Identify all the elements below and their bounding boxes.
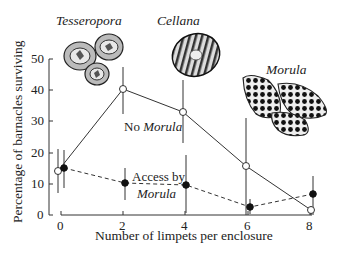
cellana-label: Cellana — [157, 13, 200, 29]
x-axis-label: Number of limpets per enclosure — [95, 228, 273, 244]
tesseropora-illustration-icon — [64, 34, 123, 85]
annotation-access-line1: Access by — [132, 169, 185, 185]
annotation-access-line2: Morula — [137, 186, 176, 202]
y-axis-label: Percentage of barnacles surviving — [10, 43, 26, 223]
morula-label: Morula — [266, 62, 307, 78]
cellana-illustration-icon — [166, 27, 225, 83]
y-tick-20: 20 — [31, 145, 44, 161]
y-tick-10: 10 — [31, 176, 44, 192]
y-tick-0: 0 — [37, 207, 44, 223]
y-tick-50: 50 — [31, 51, 44, 67]
x-tick-0: 0 — [57, 218, 64, 234]
chart: 50 40 30 20 10 0 0 2 4 6 8 Percentage of… — [0, 0, 343, 261]
y-tick-40: 40 — [31, 82, 44, 98]
morula-illustration-icon — [243, 75, 326, 135]
y-axis — [49, 59, 53, 215]
annotation-no-morula: No Morula — [124, 119, 182, 135]
x-tick-8: 8 — [306, 218, 313, 234]
tesseropora-label: Tesseropora — [56, 13, 122, 29]
y-tick-30: 30 — [31, 113, 44, 129]
